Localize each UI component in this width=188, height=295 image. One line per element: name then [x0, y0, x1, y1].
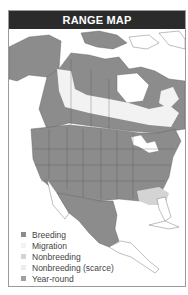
arctic-islands: [81, 31, 127, 49]
legend-label: Nonbreeding: [32, 252, 81, 262]
migration-swatch: [21, 243, 26, 248]
legend-item-migration: Migration: [21, 240, 114, 251]
nonbreeding-scarce-swatch: [21, 265, 26, 270]
legend-item-breeding: Breeding: [21, 229, 114, 240]
legend-item-year-round: Year-round: [21, 273, 114, 284]
legend-item-nonbreeding-scarce: Nonbreeding (scarce): [21, 262, 114, 273]
year-round-swatch: [21, 276, 26, 281]
legend: Breeding Migration Nonbreeding Nonbreedi…: [21, 229, 114, 284]
nonbreeding-swatch: [21, 254, 26, 259]
breeding-swatch: [21, 232, 26, 237]
central-america: [109, 241, 159, 273]
legend-label: Breeding: [32, 230, 66, 240]
legend-item-nonbreeding: Nonbreeding: [21, 251, 114, 262]
legend-label: Year-round: [32, 274, 74, 284]
range-map-title: RANGE MAP: [9, 11, 185, 29]
range-map-card: RANGE MAP: [8, 10, 186, 287]
legend-label: Migration: [32, 241, 67, 251]
legend-label: Nonbreeding (scarce): [32, 263, 114, 273]
